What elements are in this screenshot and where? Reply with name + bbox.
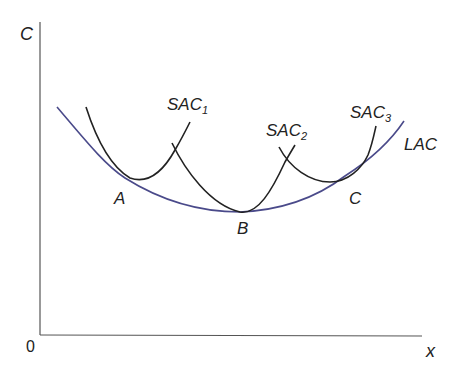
x-axis <box>40 335 422 336</box>
x-axis-label: x <box>425 341 436 361</box>
point-a-label: A <box>113 189 125 208</box>
point-c-label: C <box>349 189 362 208</box>
sac2-label: SAC2 <box>266 121 307 142</box>
origin-label: 0 <box>26 338 35 355</box>
sac3-label: SAC3 <box>350 103 392 124</box>
sac1-label: SAC1 <box>167 95 208 116</box>
point-b-label: B <box>237 219 248 238</box>
cost-curves-diagram: C 0 x SAC1 SAC2 SAC3 LAC A B C <box>0 0 465 384</box>
y-axis-label: C <box>20 24 34 44</box>
sac1-curve <box>86 107 190 180</box>
lac-label: LAC <box>404 135 438 154</box>
sac2-curve <box>172 143 295 212</box>
